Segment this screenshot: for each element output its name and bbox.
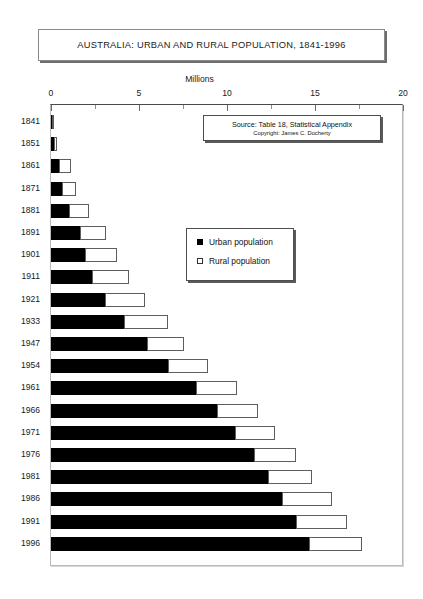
x-tick-label-10: 10 [222,88,232,98]
bar-row [51,248,117,262]
y-tick-label-1954: 1954 [21,360,40,370]
bar-row [51,293,145,307]
bar-segment-urban [51,270,93,284]
bar-row [51,492,332,506]
chart-figure: AUSTRALIA: URBAN AND RURAL POPULATION, 1… [0,0,423,599]
x-axis-major-tick [403,105,404,111]
legend-item-rural: Rural population [197,256,293,266]
chart-legend: Urban population Rural population [186,228,294,281]
bar-segment-urban [51,448,255,462]
y-tick-label-1911: 1911 [22,271,40,281]
y-tick-label-1976: 1976 [21,449,40,459]
page-title: AUSTRALIA: URBAN AND RURAL POPULATION, 1… [77,40,345,50]
x-axis-major-tick [139,105,140,111]
bar-segment-rural [62,182,76,196]
bar-row [51,159,71,173]
y-tick-label-1966: 1966 [21,405,40,415]
bar-segment-urban [51,492,283,506]
bar-segment-urban [51,315,125,329]
legend-swatch-urban-icon [197,239,203,245]
x-axis-major-tick [51,105,52,111]
bar-segment-rural [105,293,145,307]
bar-segment-rural [124,315,168,329]
y-tick-label-1996: 1996 [21,538,40,548]
bar-row [51,448,296,462]
bar-row [51,404,258,418]
bar-row [51,515,347,529]
source-note-box: Source: Table 18, Statistical Appendix C… [203,115,381,141]
bar-row [51,204,89,218]
y-tick-label-1947: 1947 [21,338,40,348]
bar-segment-urban [51,337,148,351]
y-tick-label-1981: 1981 [21,471,40,481]
x-axis-minor-tick [359,105,360,109]
chart-title-box: AUSTRALIA: URBAN AND RURAL POPULATION, 1… [38,29,385,61]
bar-row [51,426,275,440]
x-axis-unit-text: Millions [185,74,214,84]
bar-segment-rural [268,470,312,484]
bar-segment-urban [51,426,236,440]
bar-segment-rural [54,137,58,151]
y-tick-label-1961: 1961 [21,382,40,392]
bar-segment-rural [254,448,296,462]
bar-segment-urban [51,381,197,395]
bar-segment-rural [168,359,208,373]
bar-segment-rural [217,404,257,418]
y-tick-label-1841: 1841 [21,116,40,126]
bar-segment-rural [196,381,236,395]
y-tick-label-1921: 1921 [21,294,40,304]
y-tick-label-1986: 1986 [21,493,40,503]
bar-segment-urban [51,293,106,307]
bar-segment-urban [51,515,297,529]
bar-row [51,315,168,329]
legend-item-urban: Urban population [197,237,293,247]
x-axis-unit-label: Millions [0,74,423,84]
legend-swatch-rural-icon [197,258,203,264]
bar-row [51,226,106,240]
y-tick-label-1933: 1933 [21,316,40,326]
x-tick-label-5: 5 [137,88,142,98]
legend-label-urban: Urban population [209,237,273,247]
y-tick-label-1891: 1891 [21,227,40,237]
bar-segment-rural [85,248,117,262]
bar-row [51,115,54,129]
bar-segment-rural [92,270,129,284]
bar-row [51,337,184,351]
bar-row [51,470,312,484]
bar-segment-rural [59,159,71,173]
bar-row [51,381,237,395]
bar-segment-urban [51,204,70,218]
bar-segment-rural [235,426,275,440]
bar-row [51,359,208,373]
y-tick-label-1851: 1851 [21,138,40,148]
bar-row [51,270,129,284]
bar-segment-rural [309,537,362,551]
bar-segment-urban [51,404,218,418]
y-tick-label-1901: 1901 [21,249,40,259]
source-note-copyright: Copyright: James C. Docherty [253,130,330,136]
bar-segment-rural [80,226,106,240]
y-tick-label-1861: 1861 [21,160,40,170]
bar-segment-urban [51,537,310,551]
y-tick-label-1881: 1881 [21,205,40,215]
bar-segment-urban [51,226,81,240]
bar-series-container [51,105,403,565]
legend-label-rural: Rural population [209,256,270,266]
x-tick-label-0: 0 [49,88,54,98]
y-tick-label-1871: 1871 [21,183,40,193]
x-axis-major-tick [315,105,316,111]
source-note-primary: Source: Table 18, Statistical Appendix [232,120,352,129]
bar-row [51,182,76,196]
x-axis-minor-tick [95,105,96,109]
bar-segment-rural [296,515,347,529]
bar-row [51,537,362,551]
x-tick-label-15: 15 [310,88,320,98]
y-tick-label-1971: 1971 [21,427,40,437]
bar-segment-urban [51,470,269,484]
y-axis-category-labels: 1841185118611871188118911901191119211933… [0,104,48,566]
bar-segment-rural [69,204,88,218]
x-axis-minor-tick [271,105,272,109]
x-axis-major-tick [227,105,228,111]
bar-segment-urban [51,359,169,373]
bar-segment-rural [282,492,331,506]
